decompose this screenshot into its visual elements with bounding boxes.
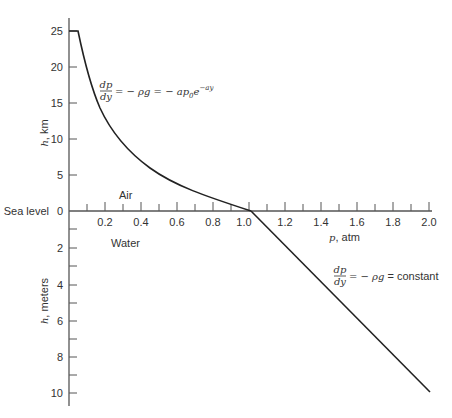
water-region-label: Water — [111, 237, 140, 249]
tick-label: 1.2 — [277, 216, 292, 228]
y-upper-tick-labels: 25 20 15 10 5 0 Sea level — [4, 25, 63, 217]
tick-label: 0.6 — [169, 216, 184, 228]
tick-label: 15 — [51, 97, 63, 109]
y-upper-ticks — [69, 31, 77, 175]
equation-water: dp dy = − ρg = constant — [334, 264, 439, 287]
tick-label: 10 — [51, 387, 63, 399]
sea-level-label: Sea level — [4, 205, 49, 217]
tick-label: 20 — [51, 61, 63, 73]
tick-label: 25 — [51, 25, 63, 37]
equation-air: dp dy = − ρg = − ap0e−ay — [100, 79, 215, 102]
tick-label: 2 — [57, 242, 63, 254]
tick-label: 8 — [57, 351, 63, 363]
air-region-label: Air — [119, 189, 133, 201]
tick-label: 10 — [51, 133, 63, 145]
tick-label: 0.4 — [133, 216, 148, 228]
svg-text:dy: dy — [334, 276, 346, 287]
tick-label: 6 — [57, 315, 63, 327]
tick-label: 1.4 — [313, 216, 328, 228]
x-axis-label: p, atm — [329, 231, 360, 243]
tick-label: 1.0 — [236, 216, 251, 228]
y-lower-ticks — [69, 229, 77, 393]
tick-label: 0 — [57, 205, 63, 217]
svg-text:dy: dy — [100, 91, 112, 102]
tick-label: 5 — [57, 169, 63, 181]
air-pressure-curve — [69, 31, 251, 211]
svg-text:dp: dp — [100, 79, 113, 90]
tick-label: 1.6 — [349, 216, 364, 228]
tick-label: 4 — [57, 279, 63, 291]
tick-label: 0.8 — [205, 216, 220, 228]
tick-label: 0.2 — [97, 216, 112, 228]
tick-label: 2.0 — [421, 216, 436, 228]
y-lower-tick-labels: 2 4 6 8 10 — [51, 242, 63, 399]
pressure-depth-chart: 25 20 15 10 5 0 Sea level 2 4 6 8 10 — [0, 0, 452, 418]
svg-text:= − ρg = constant: = − ρg = constant — [349, 270, 439, 282]
x-ticks — [87, 202, 429, 211]
svg-text:dp: dp — [334, 264, 347, 275]
svg-text:= − ρg = − ap0e−ay: = − ρg = − ap0e−ay — [115, 84, 214, 100]
y-lower-axis-label: h, meters — [38, 277, 50, 324]
tick-label: 1.8 — [385, 216, 400, 228]
y-upper-axis-label: h, km — [38, 119, 50, 146]
